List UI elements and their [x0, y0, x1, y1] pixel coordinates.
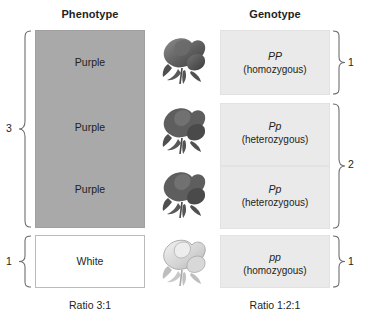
genotype-label-row-1: PP (homozygous)	[220, 50, 330, 76]
column-header-genotype: Genotype	[220, 8, 330, 20]
column-header-phenotype: Phenotype	[35, 8, 145, 20]
phenotype-ratio-caption: Ratio 3:1	[35, 299, 145, 311]
left-bracket-count-purple: 3	[6, 122, 12, 134]
right-bracket-homozygous-dominant	[332, 30, 346, 95]
genotype-zygosity-row-1: (homozygous)	[220, 63, 330, 76]
genotype-allele-row-4: pp	[220, 251, 330, 264]
right-bracket-count-dominant: 1	[348, 56, 354, 68]
genotype-zygosity-row-2: (heterozygous)	[220, 133, 330, 146]
phenotype-label-row-2: Purple	[35, 121, 145, 133]
genotype-zygosity-row-3: (heterozygous)	[220, 196, 330, 209]
genotype-label-row-3: Pp (heterozygous)	[220, 183, 330, 209]
genotype-zygosity-row-4: (homozygous)	[220, 264, 330, 277]
left-bracket-purple	[18, 30, 32, 228]
genotype-label-row-4: pp (homozygous)	[220, 251, 330, 277]
phenotype-label-row-1: Purple	[35, 56, 145, 68]
genotype-ratio-caption: Ratio 1:2:1	[220, 299, 330, 311]
right-bracket-heterozygous	[332, 103, 346, 229]
right-bracket-count-hetero: 2	[348, 158, 354, 170]
rose-icon-row-4	[158, 236, 214, 288]
phenotype-label-row-4: White	[35, 255, 145, 267]
genotype-allele-row-1: PP	[220, 50, 330, 63]
rose-icon-row-3	[158, 168, 214, 220]
right-bracket-count-recessive: 1	[348, 255, 354, 267]
right-bracket-homozygous-recessive	[332, 235, 346, 288]
left-bracket-white	[18, 235, 32, 288]
genotype-allele-row-3: Pp	[220, 183, 330, 196]
rose-icon-row-2	[158, 104, 214, 156]
genotype-label-row-2: Pp (heterozygous)	[220, 120, 330, 146]
genotype-allele-row-2: Pp	[220, 120, 330, 133]
left-bracket-count-white: 1	[6, 255, 12, 267]
phenotype-label-row-3: Purple	[35, 183, 145, 195]
rose-icon-row-1	[158, 34, 214, 86]
punnett-ratio-diagram: Phenotype Genotype Purple Purple Purple …	[0, 0, 369, 322]
